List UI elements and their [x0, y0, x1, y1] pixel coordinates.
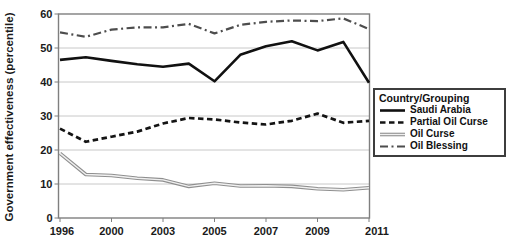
y-tick-label: 0	[46, 212, 52, 224]
x-tick-label: 1996	[50, 225, 74, 237]
dash-dot-line-icon	[379, 141, 406, 152]
series-line-oil-blessing	[60, 18, 369, 36]
legend-label-saudi-arabia: Saudi Arabia	[410, 104, 471, 116]
legend: Country/Grouping Saudi Arabia Partial Oi…	[373, 88, 506, 157]
x-tick-label: 2007	[254, 225, 278, 237]
y-axis-title: Government effectiveness (percentile)	[3, 12, 15, 221]
y-tick-label: 20	[40, 144, 52, 156]
solid-line-icon	[379, 105, 406, 116]
legend-item-partial-oil-curse: Partial Oil Curse	[379, 116, 502, 128]
series-line-saudi-arabia	[60, 41, 369, 82]
legend-item-oil-blessing: Oil Blessing	[379, 140, 502, 152]
legend-label-oil-blessing: Oil Blessing	[410, 140, 468, 152]
series-line-partial-oil-curse	[60, 114, 369, 142]
x-tick-label: 2000	[99, 225, 123, 237]
y-tick-label: 50	[40, 42, 52, 54]
y-tick-label: 60	[40, 8, 52, 20]
y-tick-label: 40	[40, 76, 52, 88]
legend-item-oil-curse: Oil Curse	[379, 128, 502, 140]
legend-label-partial-oil-curse: Partial Oil Curse	[410, 116, 488, 128]
gray-line-icon	[379, 129, 406, 140]
x-tick-label: 2009	[305, 225, 329, 237]
dashed-line-icon	[379, 117, 406, 128]
chart-figure: Government effectiveness (percentile) 01…	[0, 0, 508, 249]
plot-area: 0102030405060199620002003200520072009201…	[40, 8, 389, 237]
x-tick-label: 2011	[365, 225, 389, 237]
legend-title: Country/Grouping	[379, 92, 502, 104]
x-tick-label: 2005	[202, 225, 226, 237]
y-tick-label: 10	[40, 178, 52, 190]
y-tick-label: 30	[40, 110, 52, 122]
x-tick-label: 2003	[151, 225, 175, 237]
legend-label-oil-curse: Oil Curse	[410, 128, 454, 140]
legend-item-saudi-arabia: Saudi Arabia	[379, 104, 502, 116]
